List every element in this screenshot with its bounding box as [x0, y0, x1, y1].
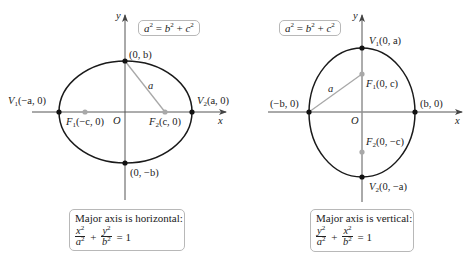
- covertex-right-dot: [412, 109, 417, 114]
- vertex-v2-label: V2(0, −a): [369, 181, 408, 194]
- fraction-term1: y2a2: [316, 226, 326, 247]
- covertex-right-label: (b, 0): [420, 98, 443, 110]
- covertex-left-label: (−b, 0): [270, 98, 299, 110]
- standard-equation: x2a2 + y2b2 = 1: [75, 226, 179, 247]
- info-box-vertical: Major axis is vertical: y2a2 + x2b2 = 1: [310, 209, 414, 252]
- x-axis-label: x: [217, 115, 223, 126]
- info-title: Major axis is horizontal:: [75, 212, 179, 225]
- info-box-horizontal: Major axis is horizontal: x2a2 + y2b2 = …: [69, 209, 185, 251]
- covertex-bottom-label: (0, −b): [130, 167, 159, 179]
- vertex-v1-dot: [56, 109, 61, 114]
- covertex-bottom-dot: [122, 160, 127, 165]
- vertex-v2-dot: [189, 109, 194, 114]
- origin-label: O: [351, 115, 359, 126]
- vertex-v1-label: V1(0, a): [369, 35, 402, 48]
- focus-f2-dot: [359, 149, 364, 154]
- focus-f2-label: F2(c, 0): [148, 116, 182, 129]
- focus-f1-dot: [82, 109, 87, 114]
- fraction-term2: y2b2: [101, 226, 111, 247]
- focus-f1-dot: [359, 71, 364, 76]
- figure-vertical: y x O (−b, 0) (b, 0) a V1(0, a) V2(0, −a…: [268, 10, 462, 202]
- standard-equation: y2a2 + x2b2 = 1: [316, 226, 408, 247]
- focus-f1-label: F1(−c, 0): [65, 116, 105, 129]
- origin-label: O: [113, 115, 121, 126]
- fraction-term1: x2a2: [75, 226, 85, 247]
- vertex-v1-label: V1(−a, 0): [8, 95, 47, 108]
- relation-box-vertical: a2 = b2 + c2: [279, 20, 341, 36]
- vertex-v1-dot: [359, 45, 364, 50]
- vertex-v2-label: V2(a, 0): [197, 95, 230, 108]
- fraction-term2: x2b2: [342, 226, 352, 247]
- covertex-top-dot: [122, 58, 127, 63]
- vertex-v2-dot: [359, 174, 364, 179]
- y-axis-label: y: [352, 10, 358, 21]
- segment-a-label: a: [148, 80, 153, 91]
- x-axis-label: x: [454, 115, 460, 126]
- focus-f2-dot: [162, 109, 167, 114]
- relation-box-horizontal: a2 = b2 + c2: [138, 20, 200, 36]
- focus-f1-label: F1(0, c): [365, 78, 399, 91]
- segment-a: [125, 61, 165, 112]
- segment-a-label: a: [328, 83, 333, 94]
- y-axis-label: y: [115, 10, 121, 21]
- info-title: Major axis is vertical:: [316, 212, 408, 225]
- figure-horizontal: y x O (0, b) (0, −b) a V1(−a, 0) V2(a, 0…: [8, 10, 230, 200]
- covertex-top-label: (0, b): [129, 49, 152, 61]
- covertex-left-dot: [306, 109, 311, 114]
- focus-f2-label: F2(0, −c): [365, 136, 405, 149]
